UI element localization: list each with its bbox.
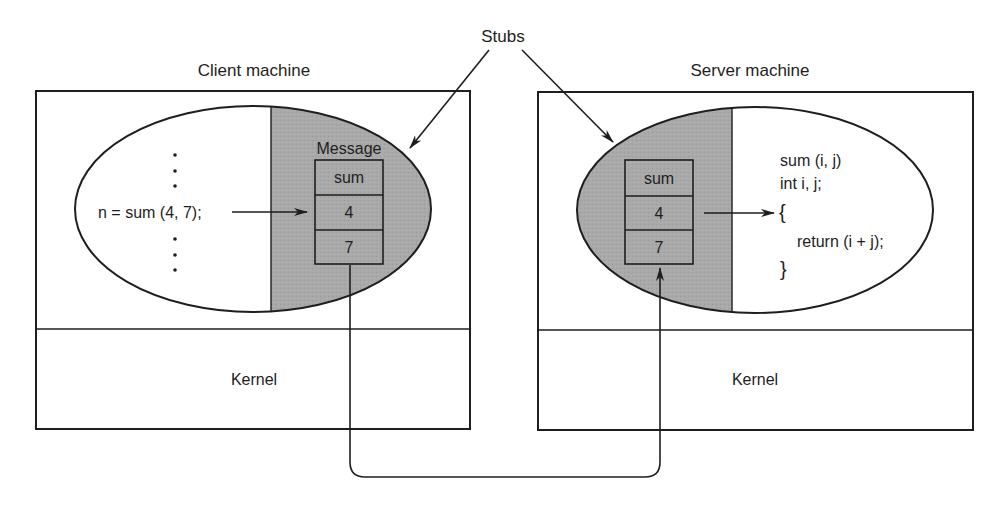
server-code-close-brace: } xyxy=(780,258,787,280)
stubs-pointer-client xyxy=(410,50,489,148)
stubs-pointer-server xyxy=(522,50,613,142)
server-kernel-label: Kernel xyxy=(732,371,778,388)
server-code-line-1: sum (i, j) xyxy=(780,152,841,169)
rpc-diagram: Stubs Client machine Kernel n = sum (4, … xyxy=(0,0,1000,507)
client-message-cell-7: 7 xyxy=(345,239,354,256)
client-machine: Client machine Kernel n = sum (4, 7); Me… xyxy=(36,61,470,429)
network-message-path xyxy=(350,265,660,477)
client-message-cell-4: 4 xyxy=(345,204,354,221)
client-code-line: n = sum (4, 7); xyxy=(98,204,202,221)
server-message-cell-sum: sum xyxy=(644,170,674,187)
client-kernel-label: Kernel xyxy=(231,371,277,388)
server-code-line-2: int i, j; xyxy=(780,175,822,192)
server-code-line-4: return (i + j); xyxy=(797,233,884,250)
server-code-open-brace: { xyxy=(779,201,786,223)
client-message-label: Message xyxy=(317,140,382,157)
server-message-cell-7: 7 xyxy=(655,239,664,256)
stubs-label: Stubs xyxy=(481,27,524,46)
server-message-cell-4: 4 xyxy=(655,205,664,222)
client-message-cell-sum: sum xyxy=(334,169,364,186)
server-machine: Server machine Kernel sum 4 7 sum (i, j)… xyxy=(538,61,973,430)
server-machine-title: Server machine xyxy=(690,61,809,80)
client-machine-title: Client machine xyxy=(198,61,310,80)
